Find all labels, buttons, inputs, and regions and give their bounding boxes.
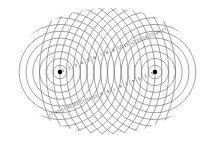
- ring-number-label: 2: [143, 73, 148, 79]
- ring-number-label: 5: [124, 81, 129, 87]
- left-source-rings: [0, 0, 176, 147]
- right-source-dot: [153, 70, 158, 75]
- right-ring: [60, 0, 213, 147]
- ring-number-label: 8: [105, 50, 110, 56]
- ring-number-label: 2: [67, 65, 72, 71]
- ring-number-label: 7: [99, 52, 104, 58]
- left-ring: [0, 0, 142, 147]
- ring-number-label: 7: [112, 86, 117, 92]
- ring-number-label: 4: [131, 78, 136, 84]
- ring-number-label: 4: [80, 60, 85, 66]
- ring-number-label: 9: [111, 47, 116, 53]
- ring-number-label: 9: [99, 91, 104, 97]
- right-source-rings: [39, 0, 213, 147]
- ring-number-label: 8: [105, 89, 110, 95]
- left-source-dot: [58, 70, 63, 75]
- ring-number-label: 5: [86, 57, 91, 63]
- diagram-canvas: 1234567891011121314151617 12345678910111…: [0, 0, 213, 147]
- right-ring: [67, 0, 213, 147]
- ring-number-label: 3: [137, 76, 142, 82]
- ring-number-label: 3: [73, 62, 78, 68]
- right-ring: [39, 0, 213, 147]
- wave-interference-diagram: 1234567891011121314151617 12345678910111…: [0, 0, 213, 147]
- left-ring: [0, 0, 155, 147]
